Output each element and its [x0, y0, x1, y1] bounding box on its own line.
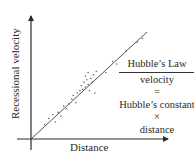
data-point — [79, 90, 81, 92]
equation-hubble-constant: Hubble’s constant — [119, 99, 194, 112]
data-point — [63, 106, 65, 108]
equation-equals: = — [119, 86, 194, 99]
data-point — [90, 78, 92, 80]
data-point — [48, 118, 50, 120]
data-point — [75, 102, 77, 104]
data-point — [83, 81, 85, 83]
data-point — [93, 74, 95, 76]
x-axis-label: Distance — [70, 141, 108, 153]
data-point — [91, 81, 93, 83]
data-point — [85, 75, 87, 77]
data-point — [55, 121, 57, 123]
data-point — [85, 86, 87, 88]
data-point — [136, 41, 138, 43]
data-point — [71, 98, 73, 100]
data-point — [57, 112, 59, 114]
data-point — [112, 61, 114, 63]
equation-distance: distance — [119, 124, 194, 137]
data-point — [68, 103, 70, 105]
data-point — [142, 38, 144, 40]
equation-velocity: velocity — [119, 74, 194, 87]
data-point — [87, 72, 89, 74]
data-point — [87, 84, 89, 86]
data-point — [76, 92, 78, 94]
data-point — [52, 114, 54, 116]
data-point — [94, 92, 96, 94]
y-axis-label: Recessional velocity — [9, 28, 21, 119]
data-point — [105, 72, 107, 74]
data-point — [125, 50, 127, 52]
data-point — [44, 124, 46, 126]
data-point — [82, 89, 84, 91]
data-point — [72, 95, 74, 97]
data-point — [86, 79, 88, 81]
data-point — [60, 115, 62, 117]
hubble-law-equation: Hubble’s Law velocity = Hubble’s constan… — [119, 58, 194, 136]
data-point — [81, 85, 83, 87]
data-point — [95, 70, 97, 72]
equation-title: Hubble’s Law — [119, 58, 194, 73]
data-point — [89, 90, 91, 92]
data-point — [66, 108, 68, 110]
data-point — [116, 63, 118, 65]
equation-times: × — [119, 111, 194, 124]
